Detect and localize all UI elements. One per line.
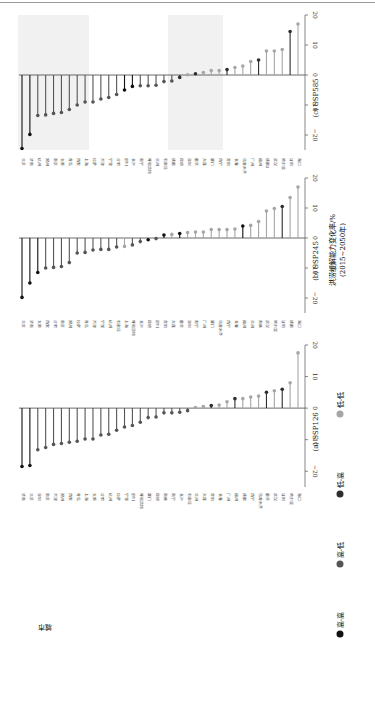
stem-dot — [257, 220, 261, 224]
legend-label: 低-高 — [336, 472, 345, 488]
city-label: 太原 — [37, 320, 42, 328]
stem-dot — [75, 439, 79, 443]
city-label: 海口 — [297, 158, 302, 166]
city-label: 呼和浩特 — [139, 493, 144, 509]
city-label: 西宁 — [250, 493, 255, 501]
stem-dot — [107, 96, 111, 100]
stem-dot — [296, 185, 300, 189]
city-label: 宁波 — [108, 158, 113, 166]
legend-label: 高-高 — [336, 612, 345, 628]
axis-tick-label: −20 — [312, 129, 319, 142]
city-label: 兰州 — [250, 320, 255, 328]
city-label: 成都 — [289, 320, 294, 328]
axis-tick-label: 0 — [312, 406, 319, 410]
stem-dot — [75, 251, 79, 255]
stem-dot — [68, 261, 72, 265]
stem-dot — [146, 84, 150, 88]
axis-tick-label: 0 — [312, 73, 319, 77]
city-label: 重庆 — [265, 493, 270, 501]
city-label: 昆明 — [155, 493, 160, 501]
stem-dot — [217, 228, 221, 232]
city-label: 北京 — [21, 320, 26, 328]
stem-dot — [265, 209, 269, 213]
stem-dot — [273, 389, 277, 393]
city-label: 武汉 — [273, 493, 278, 501]
city-label: 昆明 — [147, 320, 152, 328]
city-label: 乌鲁木齐 — [218, 320, 223, 336]
stem-dot — [131, 85, 135, 89]
city-label: 太原 — [92, 493, 97, 501]
stem-dot — [44, 266, 48, 270]
axis-tick-label: 20 — [312, 174, 319, 182]
stem-dot — [194, 406, 198, 410]
city-label: 南京 — [53, 158, 58, 166]
stem-dot — [131, 424, 135, 428]
stem-dot — [154, 83, 158, 87]
city-label: 西安 — [76, 158, 81, 166]
city-label: 拉萨 — [92, 158, 97, 166]
city-label: 郑州 — [68, 320, 73, 328]
stem-dot — [131, 243, 135, 247]
city-label: 乌鲁木齐 — [242, 158, 247, 174]
stem-dot — [28, 281, 32, 285]
stem-dot — [257, 58, 261, 62]
stem-dot — [209, 404, 213, 408]
stem-dot — [28, 464, 32, 468]
axis-tick-label: 0 — [312, 236, 319, 240]
city-label: 贵阳 — [210, 493, 215, 501]
city-label: 西宁 — [218, 158, 223, 166]
stem-dot — [91, 248, 95, 252]
stem-dot — [68, 440, 72, 444]
stem-dot — [146, 416, 150, 420]
axis-tick-label: 10 — [312, 41, 319, 49]
city-label: 长沙 — [139, 320, 144, 328]
stem-dot — [162, 80, 166, 84]
city-label: 广州 — [250, 158, 255, 166]
stem-dot — [233, 227, 237, 231]
city-label: 福州 — [234, 493, 239, 501]
city-label: 海口 — [297, 493, 302, 501]
stem-dot — [138, 421, 142, 425]
stem-dot — [288, 381, 292, 385]
stem-dot — [178, 76, 182, 80]
stem-dot — [36, 114, 40, 118]
stem-dot — [280, 48, 284, 52]
stem-dot — [60, 265, 64, 269]
stem-dot — [296, 22, 300, 26]
city-label: 沈阳 — [281, 493, 286, 501]
stem-dot — [296, 351, 300, 355]
stem-dot — [52, 112, 56, 116]
stem-dot — [225, 400, 229, 404]
city-label: 合肥 — [116, 158, 121, 166]
city-label: 拉萨 — [76, 320, 81, 328]
city-label: 兰州 — [155, 158, 160, 166]
city-label: 合肥 — [53, 320, 58, 328]
stem-dot — [75, 103, 79, 107]
city-label: 厦门 — [147, 493, 152, 501]
stem-dot — [202, 405, 206, 409]
city-label: 石家庄 — [187, 493, 192, 505]
city-label: 广州 — [202, 320, 207, 328]
city-label: 郑州 — [60, 493, 65, 501]
city-label: 银川 — [131, 493, 136, 501]
city-label: 成都 — [171, 158, 176, 166]
stem-dot — [91, 100, 95, 104]
stem-dot — [186, 73, 190, 77]
stem-dot — [36, 271, 40, 275]
city-label: 乌鲁木齐 — [258, 493, 263, 509]
city-label: 南宁 — [139, 158, 144, 166]
city-label: 长春 — [218, 493, 223, 501]
axis-tick-label: −20 — [312, 465, 319, 478]
stem-dot — [68, 108, 72, 112]
stem-dot — [233, 397, 237, 401]
city-label: 南昌 — [258, 320, 263, 328]
city-label: 呼和浩特 — [131, 320, 136, 336]
stem-dot — [194, 230, 198, 234]
city-label: 南昌 — [163, 493, 168, 501]
city-label: 厦门 — [210, 320, 215, 328]
city-label: 西安 — [68, 493, 73, 501]
city-label: 长春 — [234, 320, 239, 328]
stem-dot — [99, 433, 103, 437]
stem-dot — [60, 111, 64, 115]
stem-dot — [115, 93, 119, 97]
